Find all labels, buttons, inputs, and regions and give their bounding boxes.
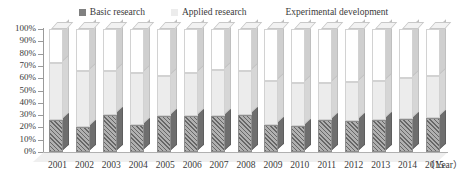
y-axis-tick-label: 30% bbox=[2, 110, 36, 119]
bar-segment-basic-research bbox=[130, 125, 144, 152]
bar-top-cap bbox=[213, 22, 235, 29]
bar-segment-applied-research-side bbox=[252, 61, 258, 113]
bar-column bbox=[291, 29, 305, 152]
bar-segment-experimental-development bbox=[49, 29, 63, 63]
chart-floor-edge bbox=[44, 152, 448, 153]
x-axis-tick-label: 2009 bbox=[259, 160, 287, 170]
bar-segment-experimental-development bbox=[291, 29, 305, 83]
legend-label-basic-research: Basic research bbox=[90, 7, 145, 17]
legend-label-applied-research: Applied research bbox=[182, 7, 247, 17]
y-axis-tick bbox=[38, 115, 43, 116]
bar-top-cap bbox=[348, 22, 370, 29]
bar-segment-basic-research bbox=[157, 116, 171, 152]
y-axis-labels: 100%90%80%70%60%50%40%30%20%10%0% bbox=[0, 0, 36, 182]
bar-segment-basic-research-side bbox=[117, 105, 123, 149]
legend-swatch-experimental-development bbox=[273, 8, 282, 17]
bar-segment-applied-research bbox=[291, 83, 305, 126]
bar-segment-experimental-development bbox=[238, 29, 252, 71]
legend-item-experimental-development: Experimental development bbox=[273, 7, 389, 17]
bar-top-cap bbox=[267, 22, 289, 29]
bar-segment-applied-research-side bbox=[63, 54, 69, 118]
bar-segment-applied-research bbox=[157, 76, 171, 117]
x-axis-tick-label: 2003 bbox=[97, 160, 125, 170]
bar-segment-basic-research bbox=[318, 120, 332, 152]
bar-top-cap bbox=[132, 22, 154, 29]
chart-container: Basic research Applied research Experime… bbox=[0, 0, 467, 182]
bar-segment-applied-research bbox=[103, 71, 117, 115]
bar-segment-experimental-development bbox=[211, 29, 225, 70]
bar-column bbox=[399, 29, 413, 152]
bar-column bbox=[49, 29, 63, 152]
bar-segment-applied-research-side bbox=[90, 61, 96, 125]
bar-segment-basic-research bbox=[184, 116, 198, 152]
y-axis-tick-label: 70% bbox=[2, 61, 36, 70]
bar-column bbox=[345, 29, 359, 152]
bar-segment-applied-research bbox=[318, 83, 332, 120]
bar-segment-basic-research bbox=[238, 115, 252, 152]
legend-item-applied-research: Applied research bbox=[171, 7, 247, 17]
bar-segment-applied-research-side bbox=[117, 61, 123, 113]
y-axis-tick-label: 0% bbox=[2, 147, 36, 156]
bar-segment-experimental-development bbox=[318, 29, 332, 83]
y-axis-tick-label: 90% bbox=[2, 36, 36, 45]
bar-series-area bbox=[44, 29, 448, 152]
y-axis-tick-label: 50% bbox=[2, 86, 36, 95]
bar-segment-applied-research-side bbox=[198, 63, 204, 113]
bar-top-cap bbox=[240, 22, 262, 29]
bar-segment-applied-research bbox=[76, 71, 90, 128]
bar-segment-basic-research bbox=[426, 118, 440, 152]
bar-column bbox=[130, 29, 144, 152]
bar-column bbox=[76, 29, 90, 152]
bar-segment-applied-research-side bbox=[144, 63, 150, 122]
y-axis-tick bbox=[38, 127, 43, 128]
legend-swatch-basic-research bbox=[79, 9, 86, 16]
y-axis-tick bbox=[38, 41, 43, 42]
bar-segment-applied-research-side bbox=[413, 68, 419, 116]
bar-top-cap bbox=[321, 22, 343, 29]
x-axis-tick-label: 2008 bbox=[232, 160, 260, 170]
bar-column bbox=[264, 29, 278, 152]
bar-segment-basic-research bbox=[49, 120, 63, 152]
x-axis-tick-label: 2012 bbox=[340, 160, 368, 170]
bar-segment-applied-research bbox=[238, 71, 252, 115]
bar-segment-applied-research bbox=[426, 76, 440, 118]
bar-segment-experimental-development bbox=[184, 29, 198, 73]
bar-segment-applied-research-side bbox=[305, 73, 311, 123]
y-axis-tick bbox=[38, 91, 43, 92]
bar-column bbox=[211, 29, 225, 152]
y-axis-tick-label: 40% bbox=[2, 98, 36, 107]
bar-segment-applied-research-side bbox=[225, 60, 231, 114]
x-axis-tick-label: 2006 bbox=[178, 160, 206, 170]
y-axis-tick bbox=[38, 29, 43, 30]
bar-segment-applied-research bbox=[49, 63, 63, 120]
y-axis-tick bbox=[38, 66, 43, 67]
bar-segment-applied-research-side bbox=[440, 66, 446, 115]
bar-segment-applied-research bbox=[184, 73, 198, 116]
bar-segment-basic-research bbox=[103, 115, 117, 152]
bar-segment-applied-research bbox=[399, 78, 413, 119]
bar-column bbox=[157, 29, 171, 152]
x-axis-labels: 2001200220032004200520062007200820092010… bbox=[0, 160, 467, 174]
bar-segment-applied-research-side bbox=[386, 71, 392, 118]
y-axis-tick-label: 100% bbox=[2, 24, 36, 33]
y-axis-tick-label: 60% bbox=[2, 73, 36, 82]
bar-segment-applied-research bbox=[211, 70, 225, 117]
x-axis-tick-label: 2010 bbox=[286, 160, 314, 170]
bar-segment-experimental-development bbox=[264, 29, 278, 81]
bar-segment-basic-research bbox=[76, 127, 90, 152]
x-axis-tick-label: 2001 bbox=[43, 160, 71, 170]
bar-segment-applied-research-side bbox=[278, 71, 284, 123]
bar-top-cap bbox=[294, 22, 316, 29]
chart-legend: Basic research Applied research Experime… bbox=[0, 5, 467, 19]
bar-segment-basic-research bbox=[372, 120, 386, 152]
bar-segment-basic-research bbox=[399, 119, 413, 152]
bar-top-cap bbox=[78, 22, 100, 29]
y-axis-tick-label: 20% bbox=[2, 122, 36, 131]
bar-top-cap bbox=[402, 22, 424, 29]
bar-segment-experimental-development bbox=[76, 29, 90, 71]
y-axis-tick-label: 80% bbox=[2, 49, 36, 58]
bar-column bbox=[426, 29, 440, 152]
bar-segment-applied-research bbox=[264, 81, 278, 125]
x-axis-tick-label: 2014 bbox=[394, 160, 422, 170]
bar-segment-applied-research bbox=[372, 81, 386, 120]
